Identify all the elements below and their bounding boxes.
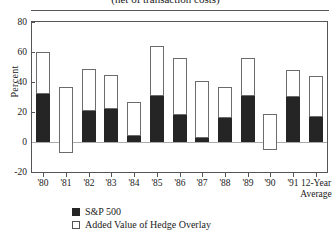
bar-segment-sp500[interactable] [309, 117, 323, 143]
bar-segment-hedge-overlay[interactable] [82, 69, 96, 111]
bar-segment-hedge-overlay[interactable] [173, 58, 187, 115]
bar-segment-hedge-overlay[interactable] [286, 70, 300, 97]
y-axis-tick-label: 60 [0, 47, 31, 58]
x-axis-tick-mark [270, 173, 271, 177]
bar-segment-sp500[interactable] [150, 96, 164, 143]
bar-segment-hedge-overlay[interactable] [59, 87, 73, 153]
x-axis-tick-mark [293, 173, 294, 177]
open-square-icon [72, 221, 80, 229]
y-axis-tick-label: -20 [0, 167, 31, 178]
title-rule [31, 10, 329, 11]
x-axis-tick-label: 12-YearAverage [296, 178, 336, 199]
x-axis-tick-mark [248, 173, 249, 177]
y-axis-tick-label: 20 [0, 107, 31, 118]
bar-segment-hedge-overlay[interactable] [218, 87, 232, 119]
bar-segment-hedge-overlay[interactable] [309, 76, 323, 117]
x-axis-tick-mark [134, 173, 135, 177]
x-axis-tick-mark [316, 173, 317, 177]
legend-item-label: S&P 500 [85, 206, 121, 217]
y-axis-tick-label: 40 [0, 77, 31, 88]
y-axis-tick-label: 80 [0, 17, 31, 28]
y-axis-tick-label: 0 [0, 137, 31, 148]
x-axis-tick-mark [157, 173, 158, 177]
bar-segment-hedge-overlay[interactable] [150, 46, 164, 96]
bar-segment-hedge-overlay[interactable] [241, 58, 255, 96]
bar-segment-sp500[interactable] [173, 115, 187, 142]
bar-segment-sp500[interactable] [36, 94, 50, 142]
x-axis-tick-mark [202, 173, 203, 177]
filled-square-icon [72, 208, 80, 216]
x-axis-tick-mark [43, 173, 44, 177]
bar-segment-sp500[interactable] [104, 109, 118, 142]
y-axis-tick-mark [31, 82, 35, 83]
bar-segment-sp500[interactable] [82, 111, 96, 143]
x-axis-tick-mark [66, 173, 67, 177]
bar-segment-sp500[interactable] [127, 136, 141, 142]
y-axis-tick-mark [31, 172, 35, 173]
legend-item: Added Value of Hedge Overlay [72, 218, 211, 231]
chart-title: (net of transaction costs) [0, 0, 331, 5]
x-axis-tick-mark [111, 173, 112, 177]
x-axis-tick-mark [89, 173, 90, 177]
y-axis-tick-mark [31, 52, 35, 53]
bar-segment-sp500[interactable] [241, 96, 255, 143]
y-axis-tick-mark [31, 112, 35, 113]
bar-segment-hedge-overlay[interactable] [263, 114, 277, 150]
y-axis-tick-mark [31, 22, 35, 23]
x-axis-tick-mark [180, 173, 181, 177]
bar-segment-hedge-overlay[interactable] [127, 102, 141, 137]
bar-segment-sp500[interactable] [286, 97, 300, 142]
bar-segment-hedge-overlay[interactable] [36, 52, 50, 94]
bar-segment-sp500[interactable] [195, 138, 209, 143]
bar-segment-hedge-overlay[interactable] [104, 75, 118, 110]
legend-item: S&P 500 [72, 205, 211, 218]
bar-segment-hedge-overlay[interactable] [195, 81, 209, 138]
zero-baseline [32, 142, 327, 143]
x-axis-tick-mark [225, 173, 226, 177]
legend-item-label: Added Value of Hedge Overlay [85, 219, 211, 230]
chart-legend: S&P 500Added Value of Hedge Overlay [72, 205, 211, 231]
bar-segment-sp500[interactable] [218, 118, 232, 142]
